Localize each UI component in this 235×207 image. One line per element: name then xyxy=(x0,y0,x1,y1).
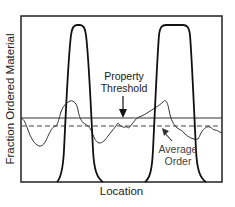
plot-area xyxy=(0,0,235,207)
threshold-arrow-icon xyxy=(119,109,127,118)
average-annotation-line2: Order xyxy=(153,155,203,167)
order-fraction-curve xyxy=(21,101,222,147)
average-arrow-icon xyxy=(162,128,169,136)
average-annotation: Average Order xyxy=(153,143,203,167)
figure: Fraction Ordered Material Property Thres… xyxy=(0,0,235,207)
threshold-annotation-line2: Threshold xyxy=(98,82,150,94)
threshold-annotation-line1: Property xyxy=(98,70,150,82)
x-axis-label: Location xyxy=(21,185,222,197)
threshold-annotation: Property Threshold xyxy=(98,70,150,94)
left-peak xyxy=(57,25,103,182)
average-annotation-line1: Average xyxy=(153,143,203,155)
